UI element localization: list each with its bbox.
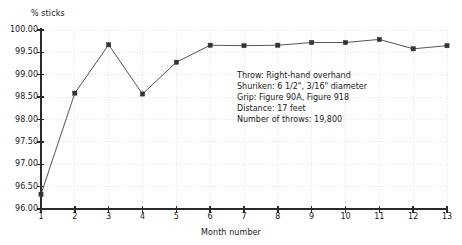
x-tick-label: 3 <box>97 213 121 221</box>
y-tick-label: 96.50 <box>2 183 38 191</box>
x-tick-label: 2 <box>63 213 87 221</box>
y-tick-label: 97.00 <box>2 160 38 168</box>
y-tick-label: 96.00 <box>2 205 38 213</box>
x-tick-label: 6 <box>198 213 222 221</box>
x-tick-label: 12 <box>401 213 425 221</box>
x-axis-title: Month number <box>0 228 462 237</box>
y-tick-label: 99.50 <box>2 48 38 56</box>
annotation-line: Grip: Figure 90A, Figure 918 <box>237 92 367 103</box>
x-tick-label: 1 <box>29 213 53 221</box>
annotation-line: Throw: Right-hand overhand <box>237 70 367 81</box>
annotation-line: Distance: 17 feet <box>237 103 367 114</box>
plot-area <box>0 0 462 245</box>
y-tick-label: 97.50 <box>2 138 38 146</box>
y-tick-label: 98.00 <box>2 116 38 124</box>
annotation-line: Number of throws: 19,800 <box>237 114 367 125</box>
y-tick-label: 100.00 <box>2 26 38 34</box>
y-tick-label: 98.50 <box>2 93 38 101</box>
x-tick-label: 8 <box>266 213 290 221</box>
x-tick-label: 11 <box>367 213 391 221</box>
x-tick-label: 4 <box>131 213 155 221</box>
annotation-text-block: Throw: Right-hand overhandShuriken: 6 1/… <box>237 70 367 125</box>
x-tick-label: 9 <box>300 213 324 221</box>
x-tick-label: 13 <box>435 213 459 221</box>
x-tick-label: 5 <box>164 213 188 221</box>
y-tick-label: 99.00 <box>2 71 38 79</box>
x-tick-label: 10 <box>334 213 358 221</box>
annotation-line: Shuriken: 6 1/2", 3/16" diameter <box>237 81 367 92</box>
x-tick-label: 7 <box>232 213 256 221</box>
line-chart: % sticks 100.0099.5099.0098.5098.0097.50… <box>0 0 462 245</box>
y-axis-title: % sticks <box>31 9 65 18</box>
